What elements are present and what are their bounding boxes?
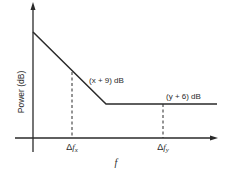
x-axis-arrow-icon — [210, 136, 218, 141]
upper-level-annotation: (x + 9) dB — [89, 76, 124, 85]
y-axis-label: Power (dB) — [16, 71, 26, 114]
x-axis-label: f — [115, 157, 119, 168]
lower-level-annotation: (y + 6) dB — [166, 92, 201, 101]
dfy-tick-label: Δfy — [157, 142, 170, 154]
y-axis-arrow-icon — [31, 2, 36, 10]
power-vs-frequency-diagram: Power (dB) (x + 9) dB (y + 6) dB Δfx Δfy… — [0, 0, 228, 174]
dfx-tick-label: Δfx — [66, 142, 79, 154]
